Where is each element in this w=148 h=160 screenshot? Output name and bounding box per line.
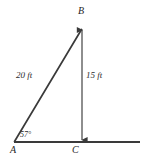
segment-ab-hypotenuse xyxy=(15,30,82,142)
vertex-label-a: A xyxy=(10,145,16,155)
vertex-label-b: B xyxy=(78,6,84,16)
vertex-label-c: C xyxy=(72,145,79,155)
geometry-figure: B A C 20 ft 15 ft 57° xyxy=(0,0,148,160)
angle-measure-label-a: 57° xyxy=(20,131,31,139)
side-length-label-bc: 15 ft xyxy=(86,71,102,80)
side-length-label-ab: 20 ft xyxy=(16,71,32,80)
